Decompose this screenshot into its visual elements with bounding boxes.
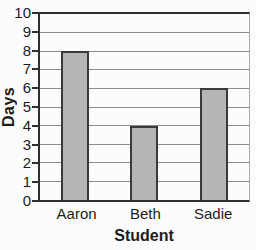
plot-area xyxy=(38,12,250,202)
bar-beth xyxy=(130,126,158,200)
bar-aaron xyxy=(61,51,89,200)
y-tick-label-6: 6 xyxy=(0,79,31,97)
y-tick-label-1: 1 xyxy=(0,173,31,191)
y-tick-label-4: 4 xyxy=(0,117,31,135)
y-tick-label-0: 0 xyxy=(0,192,31,210)
bar-chart-figure: Days 012345678910 AaronBethSadie Student xyxy=(0,0,256,250)
y-tick-label-9: 9 xyxy=(0,23,31,41)
x-tick-label-sadie: Sadie xyxy=(194,205,232,222)
bars-group xyxy=(40,14,249,200)
x-tick-label-aaron: Aaron xyxy=(57,205,97,222)
y-tick-label-7: 7 xyxy=(0,60,31,78)
y-tick-label-3: 3 xyxy=(0,136,31,154)
y-tick-label-2: 2 xyxy=(0,154,31,172)
y-tick-label-8: 8 xyxy=(0,42,31,60)
x-tick-label-beth: Beth xyxy=(130,205,161,222)
bar-sadie xyxy=(200,88,228,200)
y-tick-label-10: 10 xyxy=(0,4,31,22)
x-axis: AaronBethSadie xyxy=(40,205,249,222)
x-axis-title: Student xyxy=(38,227,250,245)
y-tick-label-5: 5 xyxy=(0,98,31,116)
